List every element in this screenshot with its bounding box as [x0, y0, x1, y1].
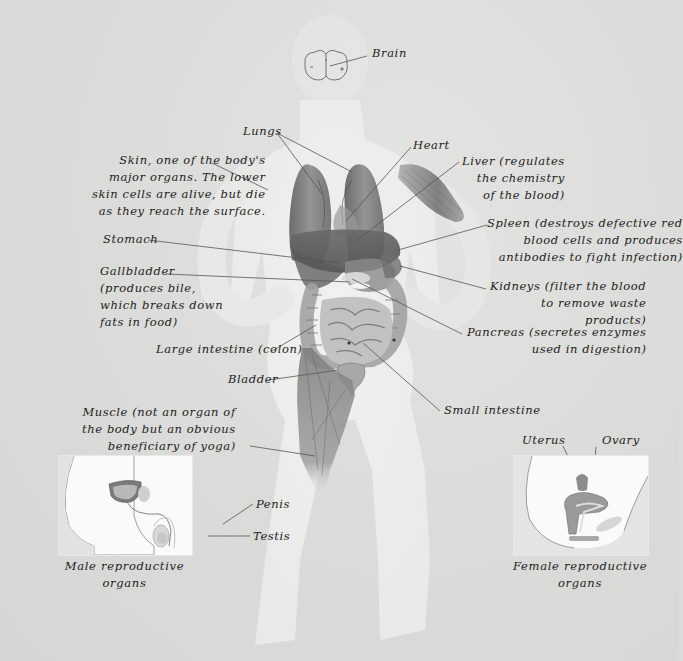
- label-penis: Penis: [256, 496, 290, 513]
- label-lungs: Lungs: [243, 123, 282, 140]
- label-kidneys: Kidneys (filter the blood to remove wast…: [490, 278, 646, 329]
- label-muscle: Muscle (not an organ of the body but an …: [82, 404, 236, 455]
- male-caption: Male reproductive organs: [58, 558, 191, 592]
- label-heart: Heart: [413, 137, 450, 154]
- label-bladder: Bladder: [228, 371, 278, 388]
- label-stomach: Stomach: [103, 231, 158, 248]
- label-uterus: Uterus: [522, 432, 566, 449]
- label-pancreas: Pancreas (secretes enzymes used in diges…: [467, 324, 647, 358]
- label-testis: Testis: [253, 528, 290, 545]
- label-gallbladder: Gallbladder (produces bile, which breaks…: [100, 263, 223, 331]
- female-caption: Female reproductive organs: [513, 558, 647, 592]
- female-organs-illustration: [514, 456, 648, 555]
- label-skin: Skin, one of the body's major organs. Th…: [92, 152, 266, 220]
- label-brain: Brain: [372, 45, 407, 62]
- female-reproductive-inset: [513, 455, 649, 556]
- label-liver: Liver (regulates the chemistry of the bl…: [462, 153, 565, 204]
- male-organs-illustration: [59, 456, 192, 555]
- label-spleen: Spleen (destroys defective red blood cel…: [487, 215, 683, 266]
- label-small-intestine: Small intestine: [444, 402, 541, 419]
- label-ovary: Ovary: [602, 432, 640, 449]
- label-large-intestine: Large intestine (colon): [156, 341, 303, 358]
- male-reproductive-inset: [58, 455, 193, 556]
